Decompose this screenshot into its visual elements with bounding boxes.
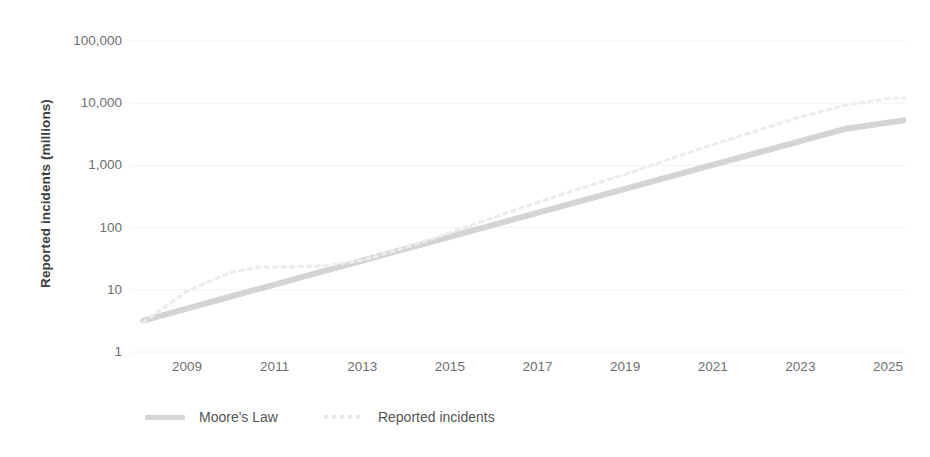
- legend-item[interactable]: Moore's Law: [145, 410, 278, 424]
- y-axis-tick-label: 100,000: [73, 34, 122, 48]
- legend-item[interactable]: Reported incidents: [324, 410, 495, 424]
- x-axis-tick-label: 2015: [435, 358, 465, 377]
- y-axis-tick-label: 10: [107, 283, 122, 297]
- y-axis-tick-label: 10,000: [81, 96, 122, 110]
- dotted-line-swatch: [324, 415, 364, 419]
- plot-area: [130, 25, 906, 355]
- chart-legend: Moore's LawReported incidents: [145, 404, 541, 430]
- solid-line-swatch: [145, 415, 185, 420]
- x-axis-tick-label: 2017: [522, 358, 552, 377]
- x-axis-tick-label: 2013: [347, 358, 377, 377]
- x-axis-tick-labels: 200920112013201520172019202120232025: [130, 358, 906, 384]
- line-chart: Reported incidents (millions) 100,00010,…: [0, 0, 930, 457]
- x-axis-tick-label: 2019: [610, 358, 640, 377]
- y-axis-tick-label: 1: [114, 345, 122, 359]
- y-axis-tick-label: 100: [99, 221, 122, 235]
- legend-label: Reported incidents: [378, 410, 495, 424]
- x-axis-tick-label: 2011: [260, 358, 289, 377]
- plot-svg: [130, 25, 906, 355]
- legend-label: Moore's Law: [199, 410, 278, 424]
- x-axis-tick-label: 2009: [172, 358, 202, 377]
- series-line-moore-s-law: [143, 119, 906, 320]
- x-axis-tick-label: 2023: [785, 358, 815, 377]
- x-axis-tick-label: 2021: [698, 358, 728, 377]
- x-axis-tick-label: 2025: [873, 358, 903, 377]
- y-axis-tick-labels: 100,00010,0001,000100101: [0, 0, 122, 400]
- y-axis-tick-label: 1,000: [88, 158, 122, 172]
